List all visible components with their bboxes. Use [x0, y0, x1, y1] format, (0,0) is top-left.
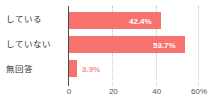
category-label-2: 無回答: [6, 64, 66, 74]
xtick-label-1: 20: [109, 87, 118, 96]
bar-value-label-1: 53.7%: [153, 40, 176, 49]
category-axis: している していない 無回答: [0, 0, 68, 86]
gridline-60: [198, 6, 199, 86]
xtick-label-3: 60%: [191, 87, 207, 96]
value-axis-ticks: 0 20 40 60%: [68, 87, 198, 99]
category-label-0: している: [6, 14, 66, 24]
category-label-1: していない: [6, 39, 66, 49]
bar-value-label-0: 42.4%: [129, 16, 152, 25]
bar-2: [69, 60, 77, 77]
horizontal-bar-chart: している していない 無回答 42.4% 53.7% 3.9% 0 20 40 …: [0, 0, 219, 102]
plot-area: 42.4% 53.7% 3.9%: [68, 6, 198, 86]
bar-value-label-2: 3.9%: [82, 64, 100, 73]
xtick-label-0: 0: [67, 87, 71, 96]
xtick-label-2: 40: [152, 87, 161, 96]
